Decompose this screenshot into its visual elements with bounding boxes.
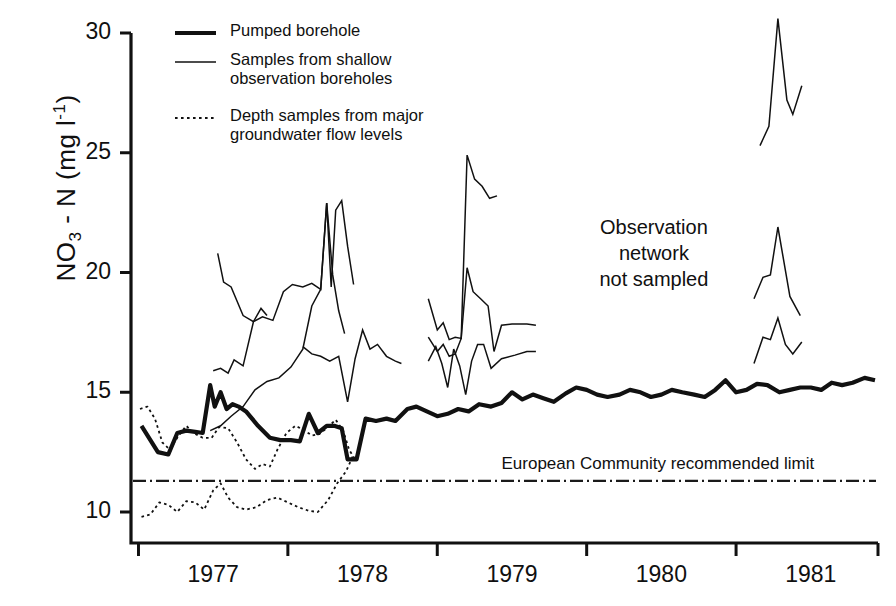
legend-label: Depth samples from major groundwater flo… — [230, 106, 423, 144]
legend-line-samples — [175, 33, 216, 118]
x-axis-ticks — [138, 543, 878, 556]
y-axis-ticks — [120, 33, 131, 512]
y-axis-label-unit-open: (mg l — [51, 120, 81, 188]
y-axis-label-subscript: 3 — [66, 232, 85, 242]
x-tick-label: 1979 — [477, 561, 547, 588]
series-line — [142, 378, 876, 459]
y-tick-label: 30 — [79, 18, 111, 45]
pumped-borehole-series — [142, 378, 876, 459]
y-tick-label: 10 — [79, 497, 111, 524]
series-line — [218, 253, 267, 321]
series-line — [428, 268, 536, 357]
ec-limit-label: European Community recommended limit — [502, 454, 815, 474]
series-line — [428, 155, 497, 340]
x-tick-label: 1978 — [328, 561, 398, 588]
y-axis-label-superscript: -1 — [50, 104, 69, 120]
series-line — [213, 201, 353, 374]
series-line — [303, 330, 402, 402]
x-tick-label: 1977 — [178, 561, 248, 588]
plot-canvas — [0, 0, 896, 606]
nitrate-timeseries-figure: NO3 - N (mg l-1) 1015202530 197719781979… — [0, 0, 896, 606]
series-line — [210, 203, 344, 431]
y-axis-label-unit-close: ) — [51, 94, 81, 103]
y-tick-label: 25 — [79, 138, 111, 165]
series-line — [142, 455, 354, 517]
depth-samples-series — [140, 407, 355, 517]
legend-label: Pumped borehole — [230, 21, 360, 40]
series-line — [428, 344, 536, 394]
y-axis-label-species: NO — [51, 242, 81, 282]
y-tick-label: 20 — [79, 258, 111, 285]
series-line — [754, 227, 800, 316]
chart-annotation: Observation network not sampled — [549, 214, 759, 292]
y-tick-label: 15 — [79, 377, 111, 404]
series-line — [760, 19, 802, 146]
x-tick-label: 1981 — [776, 561, 846, 588]
y-axis-label-dash: - N — [51, 188, 81, 232]
x-tick-label: 1980 — [626, 561, 696, 588]
legend-label: Samples from shallow observation borehol… — [230, 50, 392, 88]
series-line — [754, 318, 802, 364]
